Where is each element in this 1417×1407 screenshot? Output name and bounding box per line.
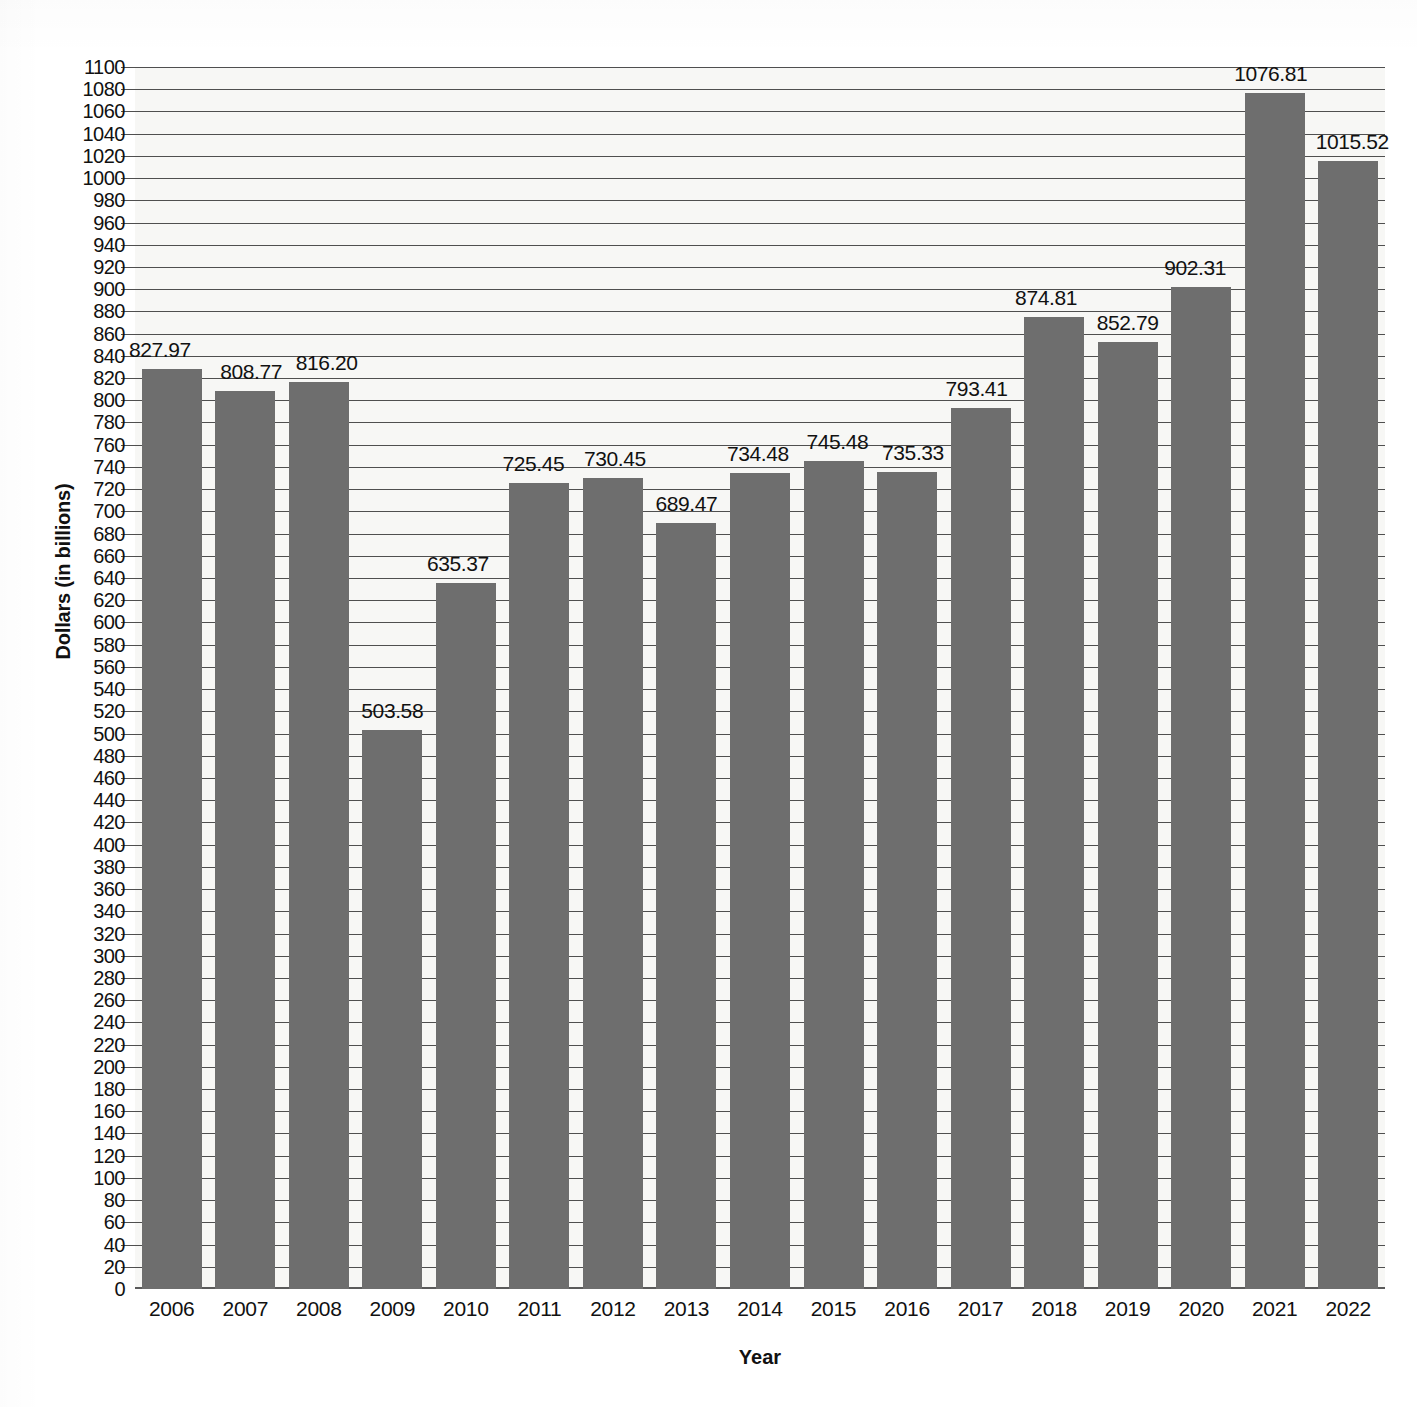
gridline — [135, 223, 1385, 224]
y-tick-label: 880 — [51, 301, 125, 321]
y-tick-label: 120 — [51, 1146, 125, 1166]
bar-value-label: 852.79 — [1097, 312, 1159, 333]
gridline — [135, 178, 1385, 179]
y-tick-label: 760 — [51, 435, 125, 455]
plot-area: 827.97808.77816.20503.58635.37725.45730.… — [135, 67, 1385, 1289]
y-tick-label: 140 — [51, 1123, 125, 1143]
bar — [877, 472, 937, 1289]
bar-value-label: 874.81 — [1015, 287, 1077, 308]
y-tick-label: 820 — [51, 368, 125, 388]
gridline — [135, 67, 1385, 68]
y-tick-label: 440 — [51, 790, 125, 810]
y-tick-label: 680 — [51, 524, 125, 544]
bar-value-label: 735.33 — [882, 442, 944, 463]
bar-value-label: 808.77 — [220, 361, 282, 382]
bar-value-label: 730.45 — [584, 448, 646, 469]
bar-chart: Dollars (in billions) 110010801060104010… — [0, 0, 1417, 1407]
y-tick-label: 1060 — [51, 101, 125, 121]
x-axis-tick-labels: 2006200720082009201020112012201320142015… — [135, 1296, 1385, 1330]
y-tick-label: 260 — [51, 990, 125, 1010]
bar-value-label: 503.58 — [361, 700, 423, 721]
y-tick-label: 560 — [51, 657, 125, 677]
y-tick-label: 360 — [51, 879, 125, 899]
bar — [362, 730, 422, 1289]
y-tick-label: 1000 — [51, 168, 125, 188]
gridline — [135, 156, 1385, 157]
bar-value-label: 827.97 — [129, 339, 191, 360]
y-tick-label: 580 — [51, 635, 125, 655]
bar-value-label: 1015.52 — [1316, 131, 1389, 152]
bar — [1024, 317, 1084, 1289]
y-tick-label: 620 — [51, 590, 125, 610]
y-tick-label: 480 — [51, 746, 125, 766]
x-tick-label: 2011 — [503, 1296, 577, 1322]
y-tick-label: 80 — [51, 1190, 125, 1210]
x-tick-label: 2019 — [1091, 1296, 1165, 1322]
y-tick-label: 980 — [51, 190, 125, 210]
y-tick-label: 380 — [51, 857, 125, 877]
x-tick-label: 2015 — [797, 1296, 871, 1322]
x-tick-label: 2020 — [1164, 1296, 1238, 1322]
bar — [509, 483, 569, 1289]
y-tick-label: 700 — [51, 501, 125, 521]
bar — [656, 523, 716, 1289]
y-tick-label: 400 — [51, 835, 125, 855]
y-tick-label: 340 — [51, 901, 125, 921]
x-tick-label: 2012 — [576, 1296, 650, 1322]
bar-value-label: 1076.81 — [1234, 63, 1307, 84]
x-tick-label: 2018 — [1017, 1296, 1091, 1322]
y-tick-label: 100 — [51, 1168, 125, 1188]
y-tick-label: 960 — [51, 213, 125, 233]
bar-value-label: 902.31 — [1164, 257, 1226, 278]
y-tick-label: 20 — [51, 1257, 125, 1277]
y-tick-label: 780 — [51, 412, 125, 432]
x-tick-label: 2010 — [429, 1296, 503, 1322]
bar-value-label: 816.20 — [296, 352, 358, 373]
y-tick-label: 320 — [51, 924, 125, 944]
x-tick-label: 2006 — [135, 1296, 209, 1322]
y-tick-label: 420 — [51, 812, 125, 832]
bar — [951, 408, 1011, 1289]
y-tick-label: 900 — [51, 279, 125, 299]
y-tick-label: 740 — [51, 457, 125, 477]
gridline — [135, 89, 1385, 90]
gridline — [135, 134, 1385, 135]
bar-value-label: 725.45 — [502, 453, 564, 474]
gridline — [135, 111, 1385, 112]
y-tick-label: 860 — [51, 324, 125, 344]
y-tick-label: 600 — [51, 612, 125, 632]
y-tick-label: 280 — [51, 968, 125, 988]
y-tick-label: 40 — [51, 1235, 125, 1255]
x-tick-label: 2007 — [209, 1296, 283, 1322]
gridline — [135, 245, 1385, 246]
bar — [1245, 93, 1305, 1289]
bar — [436, 583, 496, 1289]
x-tick-label: 2008 — [282, 1296, 356, 1322]
y-tick-label: 0 — [51, 1279, 125, 1299]
bar-value-label: 793.41 — [946, 378, 1008, 399]
y-tick-label: 180 — [51, 1079, 125, 1099]
bar-value-label: 635.37 — [427, 553, 489, 574]
bar — [730, 473, 790, 1289]
bar — [1098, 342, 1158, 1289]
y-tick-label: 800 — [51, 390, 125, 410]
bar — [583, 478, 643, 1289]
y-tick-label: 1100 — [51, 57, 125, 77]
y-tick-label: 1020 — [51, 146, 125, 166]
y-tick-label: 940 — [51, 235, 125, 255]
bar-value-label: 689.47 — [655, 493, 717, 514]
x-tick-label: 2021 — [1238, 1296, 1312, 1322]
x-tick-label: 2013 — [650, 1296, 724, 1322]
x-tick-label: 2014 — [723, 1296, 797, 1322]
x-tick-label: 2022 — [1311, 1296, 1385, 1322]
bar — [1171, 287, 1231, 1289]
y-tick-label: 200 — [51, 1057, 125, 1077]
x-tick-label: 2016 — [870, 1296, 944, 1322]
bar — [142, 369, 202, 1289]
y-axis-tick-labels: 1100108010601040102010009809609409209008… — [43, 67, 125, 1289]
y-tick-label: 460 — [51, 768, 125, 788]
bar — [215, 391, 275, 1289]
bar — [289, 382, 349, 1289]
x-axis-title: Year — [135, 1346, 1385, 1369]
y-tick-label: 540 — [51, 679, 125, 699]
